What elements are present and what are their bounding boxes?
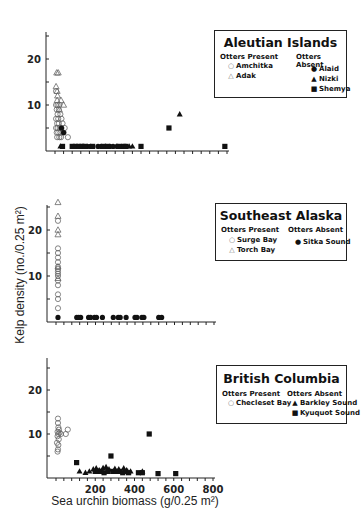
legend-item-shemya: ■Shemya: [310, 85, 350, 93]
series-sitka-sound: [55, 315, 164, 320]
series-shemya: [60, 125, 228, 149]
y-tick-label: 10: [28, 271, 42, 282]
legend-item-nizki: ▲Nizki: [310, 75, 338, 83]
legend-item-barkley-sound: ▲Barkley Sound: [291, 399, 357, 407]
legend-heading-absent: Otters Absent: [287, 390, 342, 398]
filled-square-icon: ■: [310, 85, 318, 93]
y-tick-label: 10: [28, 429, 42, 440]
filled-square-icon: ■: [291, 409, 299, 417]
y-tick-label: 20: [28, 225, 42, 236]
open-circle-icon: ○: [227, 399, 235, 407]
y-tick-label: 20: [28, 385, 42, 396]
panel-southeast-alaska: 2010: [28, 199, 216, 325]
y-tick-label: 10: [27, 100, 41, 111]
panel-british-columbia: 2010200400600800: [28, 358, 223, 495]
legend-title: Southeast Alaska: [216, 208, 346, 223]
legend-item-surge-bay: ○Surge Bay: [228, 236, 277, 244]
legend-item-kyuquot-sound: ■Kyuquot Sound: [291, 409, 360, 417]
legend-aleutian-islands: Aleutian Islands Otters Present Otters A…: [214, 30, 347, 98]
open-triangle-icon: △: [227, 72, 235, 80]
y-axis-title: Kelp density (no./0.25 m²): [13, 206, 27, 343]
legend-title: British Columbia: [217, 371, 346, 386]
legend-item-amchitka: ○Amchitka: [227, 62, 273, 70]
x-axis-title: Sea urchin biomass (g/0.25 m²): [51, 494, 218, 508]
open-triangle-icon: △: [228, 246, 236, 254]
open-circle-icon: ○: [227, 62, 235, 70]
legend-item-sitka-sound: ●Sitka Sound: [294, 238, 350, 246]
legend-heading-present: Otters Present: [221, 226, 279, 234]
legend-title: Aleutian Islands: [215, 35, 346, 50]
filled-triangle-icon: ▲: [310, 75, 318, 83]
y-tick-label: 20: [27, 54, 41, 65]
legend-heading-present: Otters Present: [222, 390, 280, 398]
legend-item-alaid: ●Alaid: [310, 65, 339, 73]
legend-item-adak: △Adak: [227, 72, 256, 80]
legend-item-checleset-bay: ○Checleset Bay: [227, 399, 291, 407]
legend-southeast-alaska: Southeast Alaska Otters Present Otters A…: [215, 203, 347, 261]
panel-aleutian-islands: 2010: [27, 32, 229, 154]
series-alaid: [59, 125, 120, 149]
legend-heading-absent: Otters Absent: [288, 226, 343, 234]
legend-british-columbia: British Columbia Otters Present Otters A…: [216, 365, 347, 424]
filled-circle-icon: ●: [310, 65, 318, 73]
legend-item-torch-bay: △Torch Bay: [228, 246, 275, 254]
filled-triangle-icon: ▲: [291, 399, 299, 407]
open-circle-icon: ○: [228, 236, 236, 244]
legend-heading-present: Otters Present: [220, 53, 278, 61]
series-checleset-bay: [54, 416, 70, 454]
filled-circle-icon: ●: [294, 238, 302, 246]
series-nizki: [57, 111, 182, 149]
